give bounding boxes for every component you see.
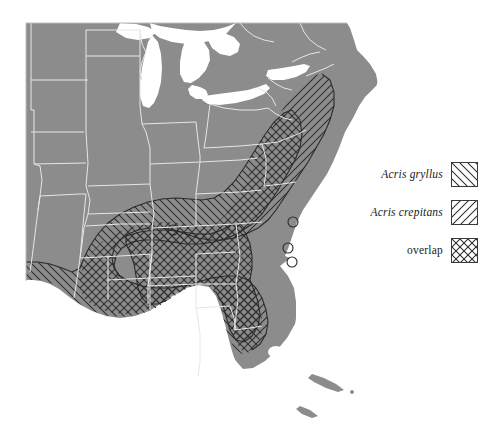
legend-swatch-acris-gryllus [451,162,478,187]
legend-item-acris-gryllus: Acris gryllus [338,160,478,188]
legend-label-acris-crepitans: Acris crepitans [370,206,451,218]
legend-label-overlap: overlap [407,244,451,256]
legend-item-acris-crepitans: Acris crepitans [338,198,478,226]
map-legend: Acris gryllus Acris crepitans overlap [338,160,478,274]
legend-label-acris-gryllus: Acris gryllus [381,168,451,180]
legend-swatch-overlap [451,238,478,263]
species-range-map-page: Acris gryllus Acris crepitans overlap [0,0,482,424]
legend-swatch-acris-crepitans [451,200,478,225]
legend-item-overlap: overlap [338,236,478,264]
